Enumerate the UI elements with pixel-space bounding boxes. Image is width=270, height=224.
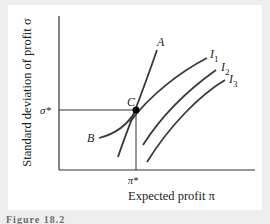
figure-caption: Figure 18.2 bbox=[6, 214, 65, 224]
y-axis-label: Standard deviation of profit σ bbox=[20, 8, 35, 178]
label-a: A bbox=[156, 35, 165, 49]
pi-star-label: π* bbox=[128, 175, 138, 186]
label-c: C bbox=[127, 95, 136, 109]
sigma-star-label: σ* bbox=[40, 104, 51, 116]
label-i1: I1 bbox=[209, 47, 219, 64]
label-i3: I3 bbox=[228, 72, 238, 89]
curve-a bbox=[118, 50, 157, 157]
x-axis-label: Expected profit π bbox=[128, 189, 215, 204]
label-b: B bbox=[87, 131, 95, 145]
curve-i2 bbox=[143, 70, 216, 145]
